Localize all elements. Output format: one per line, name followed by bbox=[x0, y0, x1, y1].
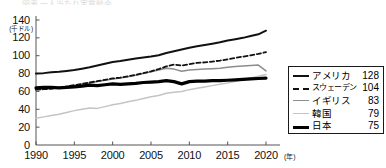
legend-swatch-icon bbox=[292, 82, 310, 94]
chart-root: 図表 一人当たり実質賧金 (千ドル) 140120100806040200 19… bbox=[0, 0, 386, 168]
legend-series-name: アメリカ bbox=[310, 70, 357, 81]
legend-series-value: 79 bbox=[357, 108, 379, 119]
legend-row: 日本75 bbox=[292, 119, 379, 132]
chart-legend: アメリカ128スウェーデン104イギリス83韓国79日本75 bbox=[288, 66, 384, 134]
legend-swatch-icon bbox=[292, 69, 310, 81]
legend-series-value: 128 bbox=[357, 70, 379, 81]
legend-series-value: 104 bbox=[357, 82, 379, 93]
legend-series-name: 日本 bbox=[310, 120, 357, 131]
legend-series-value: 75 bbox=[357, 120, 379, 131]
legend-row: アメリカ128 bbox=[292, 69, 379, 82]
legend-row: イギリス83 bbox=[292, 94, 379, 107]
legend-series-value: 83 bbox=[357, 95, 379, 106]
legend-swatch-icon bbox=[292, 120, 310, 132]
legend-series-name: イギリス bbox=[310, 95, 357, 106]
legend-row: スウェーデン104 bbox=[292, 82, 379, 95]
legend-series-name: 韓国 bbox=[310, 108, 357, 119]
legend-swatch-icon bbox=[292, 94, 310, 106]
legend-series-name: スウェーデン bbox=[310, 82, 357, 93]
legend-swatch-icon bbox=[292, 107, 310, 119]
series-line bbox=[36, 78, 266, 88]
legend-row: 韓国79 bbox=[292, 107, 379, 120]
